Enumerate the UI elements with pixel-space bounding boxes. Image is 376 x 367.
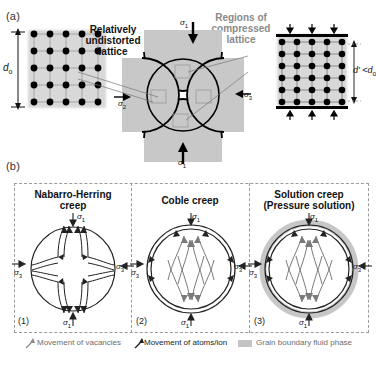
diagram-number-1: (1) xyxy=(18,316,29,326)
title-solution-creep: Solution creep (Pressure solution) xyxy=(251,189,367,211)
diagram-number-2: (2) xyxy=(136,316,147,326)
d3-sigma1-top: σ1 xyxy=(310,212,318,223)
legend-label-vacancies: Movement of vacancies xyxy=(37,338,121,347)
diagram-nabarro-herring xyxy=(14,214,132,329)
d1-sigma3-right: σ3 xyxy=(116,262,124,273)
compressed-lattice xyxy=(276,28,348,116)
d1-sigma1-top: σ1 xyxy=(77,212,85,223)
sigma1-top-label: σ1 xyxy=(180,18,188,29)
d2-sigma1-bottom: σ1 xyxy=(181,318,189,329)
sigma2-left-label: σ2 xyxy=(118,99,126,110)
d1-sigma1-bottom: σ1 xyxy=(63,318,71,329)
d2-sigma1-top: σ1 xyxy=(192,212,200,223)
sigma1-bottom-label: σ1 xyxy=(178,158,186,169)
d3-sigma3-right: σ3 xyxy=(353,262,361,273)
grain-contact-diagram xyxy=(118,12,258,172)
diagram-solution-creep xyxy=(250,214,370,329)
d2-sigma3-left: σ3 xyxy=(131,268,139,279)
title-coble-creep: Coble creep xyxy=(133,195,247,206)
title-nabarro-herring: Nabarro-Herring creep xyxy=(16,189,130,211)
d0-label: do xyxy=(3,62,12,75)
d3-sigma1-bottom: σ1 xyxy=(299,318,307,329)
gray-swatch-icon xyxy=(238,340,252,347)
gray-curved-arrow-icon xyxy=(24,337,36,349)
d2-sigma3-right: σ3 xyxy=(234,262,242,273)
sigma3-right-label: σ3 xyxy=(244,90,252,101)
legend-label-fluid-phase: Grain boundary fluid phase xyxy=(256,338,352,347)
diagram-number-3: (3) xyxy=(254,316,265,326)
dprime-label: d' <do xyxy=(353,65,376,77)
legend-label-atoms: Movement of atoms/ion xyxy=(144,338,227,347)
panel-a-letter: (a) xyxy=(6,10,20,22)
panel-b-letter: (b) xyxy=(6,160,20,172)
d1-sigma3-left: σ3 xyxy=(14,268,22,279)
d3-sigma3-left: σ3 xyxy=(249,268,257,279)
diagram-coble-creep xyxy=(132,214,250,329)
